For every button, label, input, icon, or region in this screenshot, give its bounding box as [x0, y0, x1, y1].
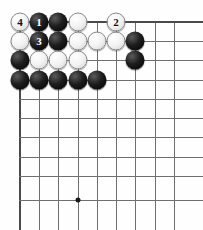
stone-black-c2r4	[30, 71, 49, 90]
stone-white-c3r3	[49, 51, 68, 70]
stone-black-move-1: 1	[30, 13, 49, 32]
stone-black-c7r2	[126, 32, 145, 51]
grid-line-vertical-9	[174, 22, 175, 230]
stone-black-move-3: 3	[30, 32, 49, 51]
stone-black-c3r2	[49, 32, 68, 51]
grid-line-horizontal-10	[19, 200, 203, 201]
grid-line-vertical-8	[155, 22, 156, 230]
stone-white-c4r2	[69, 32, 88, 51]
grid-line-horizontal-7	[19, 137, 203, 138]
move-number-label: 2	[113, 16, 119, 27]
stone-white-move-4: 4	[11, 13, 30, 32]
move-number-label: 3	[36, 35, 42, 46]
grid-line-horizontal-6	[19, 118, 203, 119]
grid-line-horizontal-8	[19, 157, 203, 158]
stone-white-c1r2	[11, 32, 30, 51]
stone-white-c6r2	[107, 32, 126, 51]
stone-white-c4r1	[69, 13, 88, 32]
star-point-1	[76, 198, 81, 203]
stone-white-c4r3	[69, 51, 88, 70]
stone-black-c7r3	[126, 51, 145, 70]
grid-line-horizontal-5	[19, 99, 203, 100]
stone-black-c5r4	[88, 71, 107, 90]
move-number-label: 4	[17, 16, 23, 27]
stone-black-c3r1	[49, 13, 68, 32]
stone-white-c5r2	[88, 32, 107, 51]
stone-black-c3r4	[49, 71, 68, 90]
go-board-diagram: 4123	[0, 0, 203, 230]
stone-white-c2r3	[30, 51, 49, 70]
move-number-label: 1	[36, 16, 42, 27]
stone-black-c1r4	[11, 71, 30, 90]
grid-line-horizontal-9	[19, 176, 203, 177]
stone-white-move-2: 2	[107, 13, 126, 32]
grid-line-vertical-5	[97, 22, 98, 230]
stone-black-c4r4	[69, 71, 88, 90]
stone-black-c1r3	[11, 51, 30, 70]
grid-line-vertical-6	[116, 22, 117, 230]
